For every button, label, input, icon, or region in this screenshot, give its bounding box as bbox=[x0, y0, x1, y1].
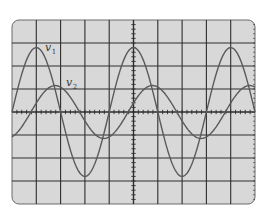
oscilloscope-chart: v1v2 bbox=[0, 0, 262, 211]
